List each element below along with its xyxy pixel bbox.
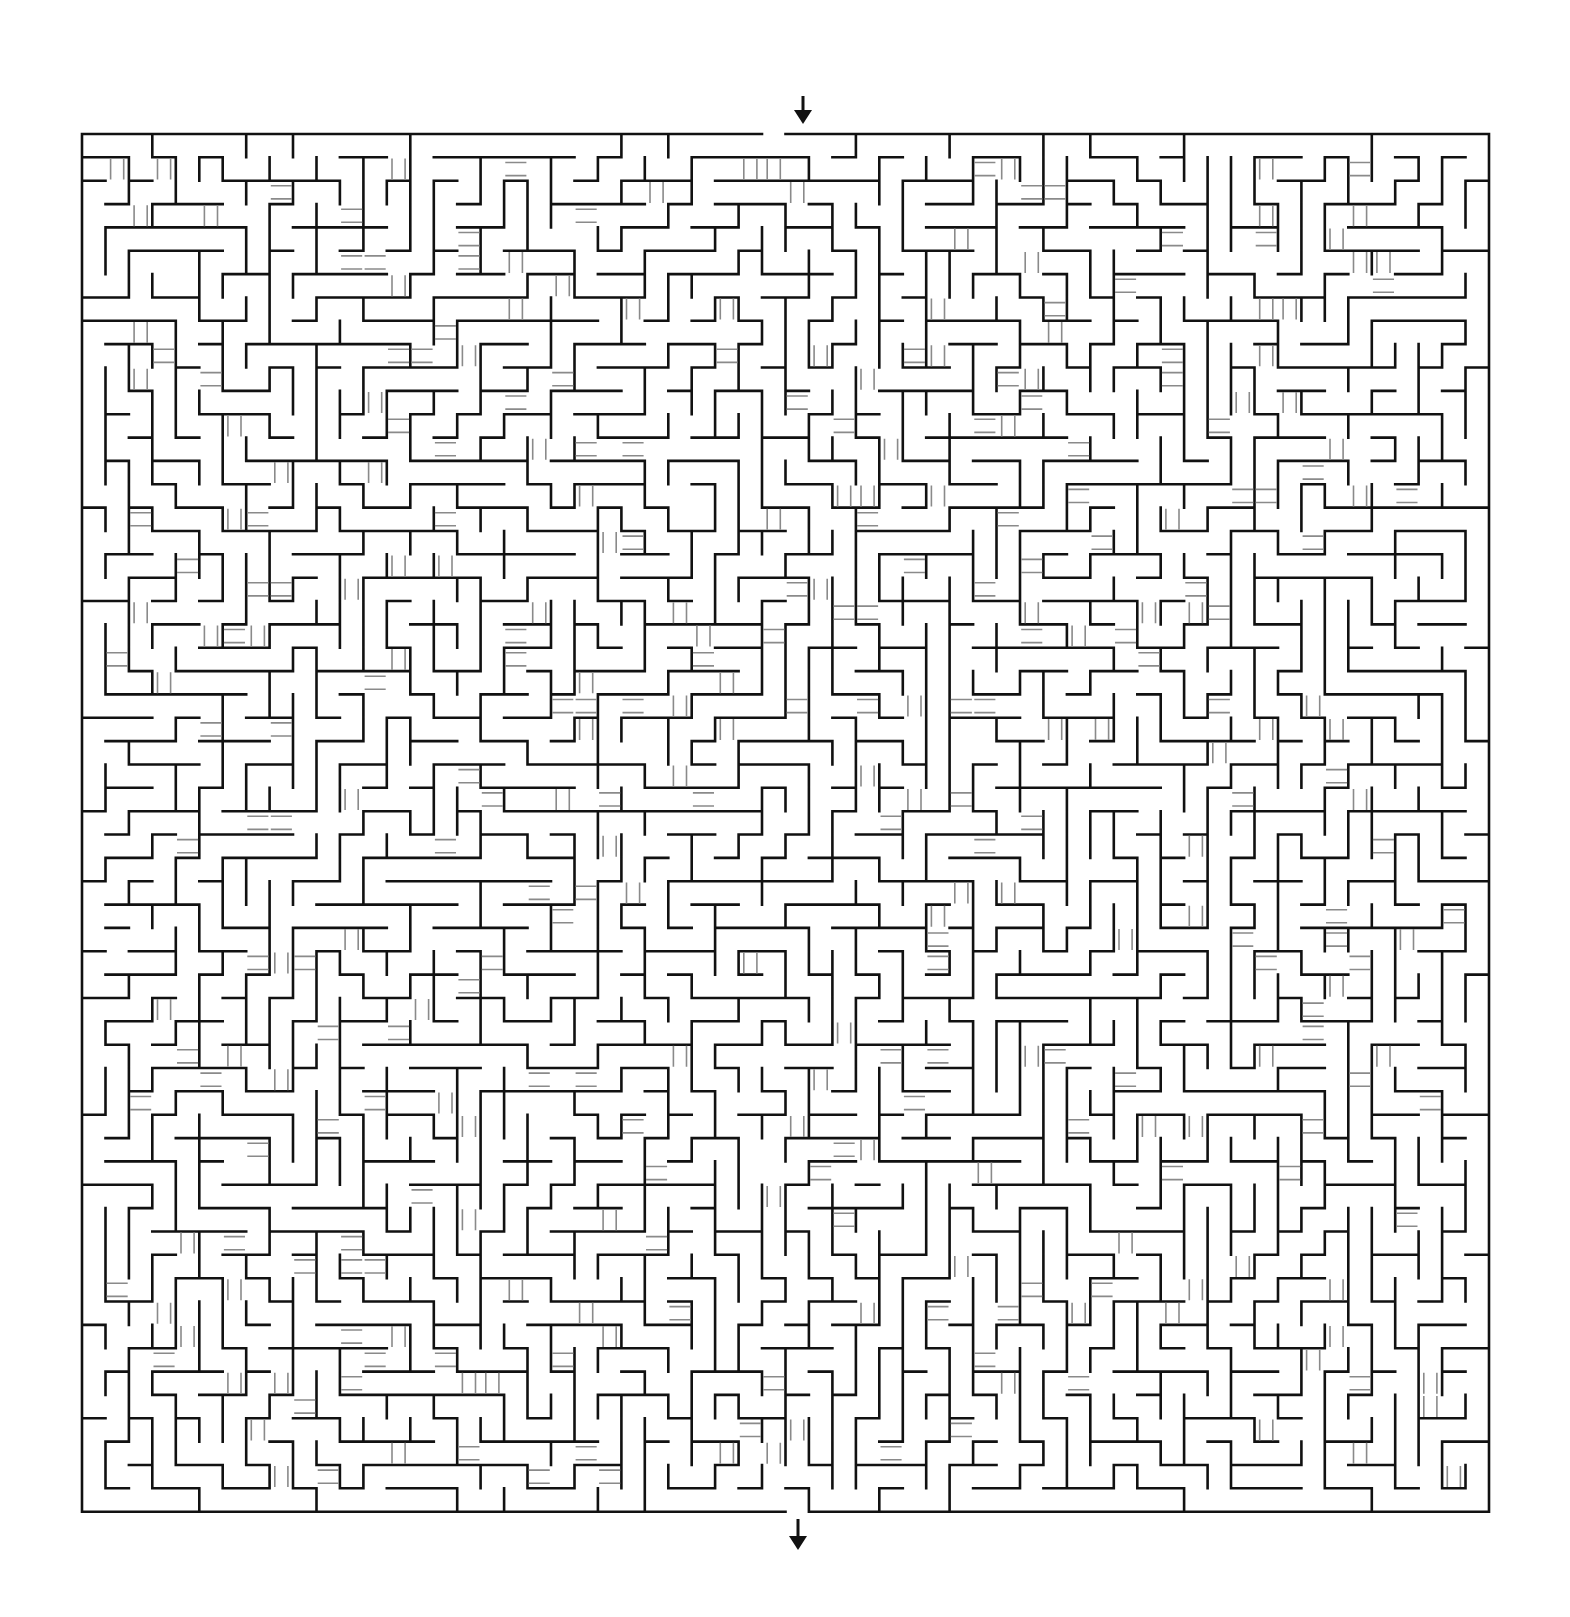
entrance-arrow-icon	[794, 96, 812, 124]
exit-arrow-icon	[789, 1519, 807, 1550]
maze-puzzle	[0, 0, 1570, 1617]
wall-segments	[82, 134, 1489, 1512]
maze-canvas[interactable]	[0, 0, 1570, 1617]
maze-walls	[82, 134, 1489, 1512]
